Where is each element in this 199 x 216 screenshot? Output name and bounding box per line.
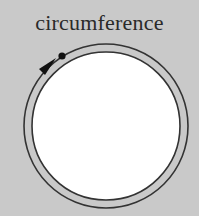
start-point-dot (58, 52, 65, 59)
circle-diagram (0, 0, 199, 216)
inner-circle (32, 52, 180, 200)
